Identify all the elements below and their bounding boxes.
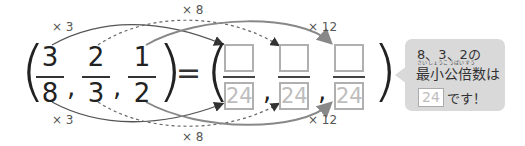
denominator: 8: [36, 80, 64, 110]
comma: ,: [67, 72, 75, 102]
numerator-input-box[interactable]: [279, 44, 309, 72]
fraction-bar: [333, 76, 365, 78]
multiplier-bottom-x3: × 3: [52, 113, 74, 127]
denominator: 2: [128, 80, 156, 110]
multiplier-top-x3: × 3: [52, 20, 74, 34]
bubble-text-desu: です！: [447, 88, 486, 107]
fraction-1-2: 1 2: [128, 44, 156, 110]
numerator-input-box[interactable]: [334, 44, 364, 72]
multiplier-bottom-x8: × 8: [182, 130, 204, 144]
multiplier-top-x8: × 8: [182, 3, 204, 17]
fraction-3-8: 3 8: [36, 44, 64, 110]
answer-fraction-3: 24: [334, 44, 364, 110]
denominator: 3: [82, 80, 110, 110]
comma: ,: [113, 72, 121, 102]
bubble-answer-box: 24: [418, 88, 444, 107]
right-close-paren: ): [372, 38, 398, 104]
answer-fraction-1: 24: [224, 44, 254, 110]
denominator-box: 24: [279, 82, 309, 110]
comma: ,: [318, 76, 326, 106]
fraction-bar: [278, 76, 310, 78]
bubble-text-lcm: 最小公倍数は: [416, 63, 500, 83]
multiplier-top-x12: × 12: [308, 20, 337, 34]
denominator-box: 24: [334, 82, 364, 110]
numerator-input-box[interactable]: [224, 44, 254, 72]
denominator-box: 24: [224, 82, 254, 110]
answer-fraction-2: 24: [279, 44, 309, 110]
numerator: 1: [128, 44, 156, 74]
multiplier-bottom-x12: × 12: [308, 113, 337, 127]
numerator: 2: [82, 44, 110, 74]
comma: ,: [263, 76, 271, 106]
numerator: 3: [36, 44, 64, 74]
fraction-2-3: 2 3: [82, 44, 110, 110]
equals-sign: =: [176, 55, 201, 90]
fraction-bar: [223, 76, 255, 78]
